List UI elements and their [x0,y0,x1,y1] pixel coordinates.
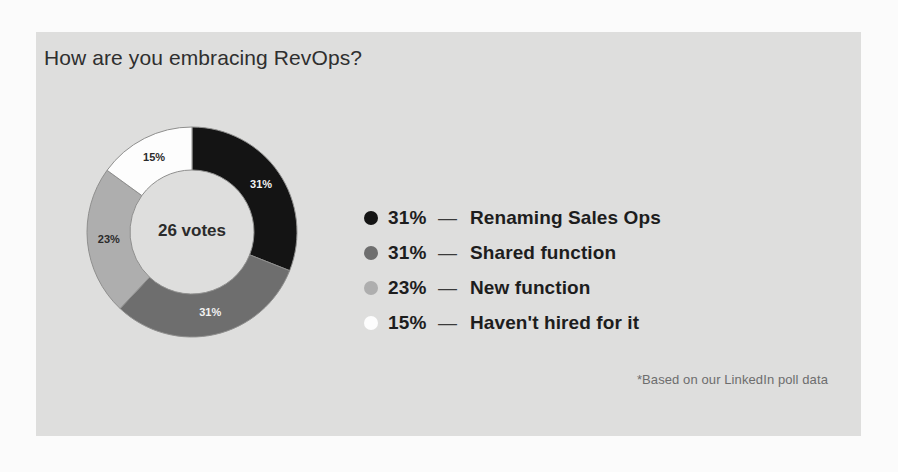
legend-label: New function [470,277,590,299]
legend-percentage: 31% [388,242,438,264]
footnote: *Based on our LinkedIn poll data [637,372,828,387]
legend-bullet-icon [364,246,378,260]
donut-slice-label: 15% [143,151,165,163]
legend-separator: — [438,277,470,299]
donut-slice-label: 31% [250,178,272,190]
legend-item[interactable]: 15%—Haven't hired for it [364,305,794,340]
legend-item[interactable]: 23%—New function [364,270,794,305]
legend-percentage: 23% [388,277,438,299]
legend-percentage: 15% [388,312,438,334]
legend-label: Renaming Sales Ops [470,207,661,229]
legend-bullet-icon [364,281,378,295]
legend-item[interactable]: 31%—Renaming Sales Ops [364,200,794,235]
donut-slice-label: 23% [98,233,120,245]
legend-separator: — [438,242,470,264]
legend-item[interactable]: 31%—Shared function [364,235,794,270]
legend-separator: — [438,207,470,229]
donut-slice-label: 31% [199,306,221,318]
donut-slice [120,255,290,337]
chart-title: How are you embracing RevOps? [44,46,362,70]
donut-center-label: 26 votes [158,221,226,240]
donut-chart: 26 votes 31%31%23%15% [49,89,335,375]
legend-label: Shared function [470,242,616,264]
legend-bullet-icon [364,316,378,330]
legend-label: Haven't hired for it [470,312,639,334]
legend-bullet-icon [364,211,378,225]
donut-slice [192,127,297,271]
legend-percentage: 31% [388,207,438,229]
chart-legend: 31%—Renaming Sales Ops31%—Shared functio… [364,200,794,340]
legend-separator: — [438,312,470,334]
donut-chart-svg: 26 votes 31%31%23%15% [49,89,335,375]
